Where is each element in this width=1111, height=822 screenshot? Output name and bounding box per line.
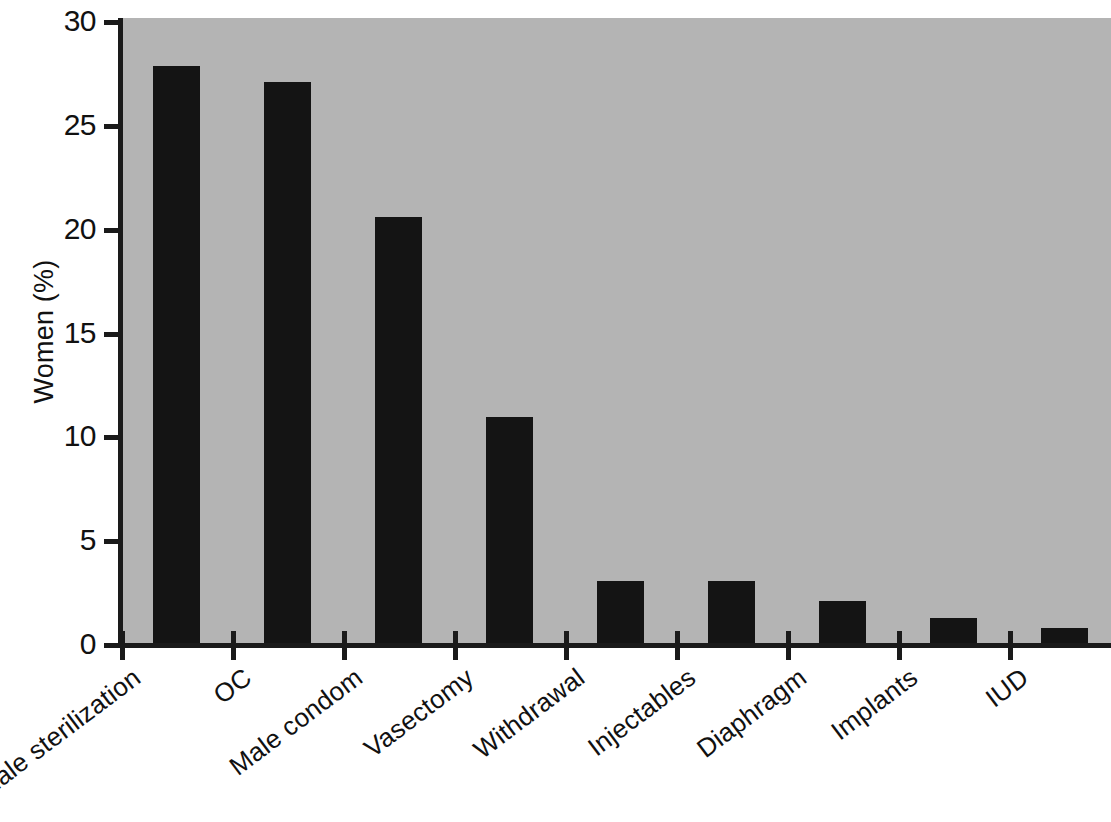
x-tick-diaphragm [786,631,791,660]
x-label-implants: Implants [825,662,923,747]
x-tick-oc [231,631,236,660]
bar-implants [930,618,977,645]
y-tick-5 [104,539,123,544]
bar-chart-figure: 302520151050 Women (%) Female sterilizat… [0,0,1111,822]
y-tick-30 [104,20,123,25]
bar-withdrawal [597,581,644,645]
x-tick-male-condom [342,631,347,660]
x-label-withdrawal: Withdrawal [468,662,591,765]
bar-male-condom [375,217,422,645]
x-label-female-sterilization: Female sterilization [0,662,147,822]
x-label-diaphragm: Diaphragm [691,662,813,764]
x-tick-withdrawal [564,631,569,660]
x-label-iud: IUD [980,662,1035,714]
bar-injectables [708,581,755,645]
bar-diaphragm [819,601,866,645]
x-axis-line [104,643,1111,648]
x-tick-injectables [675,631,680,660]
y-tick-20 [104,228,123,233]
y-tick-15 [104,332,123,337]
x-label-vasectomy: Vasectomy [358,662,479,764]
bar-female-sterilization [153,66,200,645]
x-tick-vasectomy [453,631,458,660]
bar-oc [264,82,311,645]
y-tick-25 [104,124,123,129]
x-tick-female-sterilization [120,631,125,660]
y-axis-title: Women (%) [24,18,64,645]
x-tick-iud [1008,631,1013,660]
x-tick-implants [897,631,902,660]
bar-vasectomy [486,417,533,645]
y-tick-10 [104,435,123,440]
x-label-oc: OC [208,662,258,710]
x-label-injectables: Injectables [582,662,702,763]
